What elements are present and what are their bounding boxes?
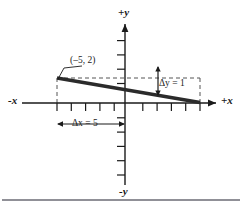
axis-label-positive-y: +y — [118, 7, 129, 18]
axis-label-negative-y: -y — [119, 186, 128, 197]
point-coordinate-label: (–5, 2) — [70, 56, 95, 66]
y-axis-ticks — [117, 41, 125, 175]
delta-x-label: Δx = 5 — [72, 119, 98, 129]
x-axis-ticks — [57, 103, 200, 111]
axis-label-positive-x: +x — [221, 95, 233, 106]
y-axis-arrowhead — [122, 24, 129, 32]
x-axis-arrowhead — [208, 100, 216, 107]
point-callout-leader — [58, 66, 82, 79]
graph-canvas — [0, 0, 245, 210]
delta-y-label: Δy = 1 — [159, 79, 185, 89]
slope-graph-figure: +y -y +x -x (–5, 2) Δy = 1 Δx = 5 — [0, 0, 245, 210]
axis-label-negative-x: -x — [8, 95, 17, 106]
